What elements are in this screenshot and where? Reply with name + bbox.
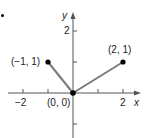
- point-origin: [70, 90, 76, 96]
- x-axis-label: x: [134, 98, 139, 108]
- segment-left: [48, 62, 73, 93]
- point-neg1-1: [45, 59, 50, 64]
- segment-right: [73, 62, 123, 93]
- coordinate-plane: [0, 0, 149, 138]
- x-tick-label-2: 2: [120, 98, 126, 108]
- point-label-2-1: (2, 1): [108, 45, 131, 55]
- y-axis-arrow-icon: [71, 12, 76, 19]
- point-label-neg1-1: (−1, 1): [11, 57, 40, 67]
- point-label-origin: (0, 0): [47, 98, 70, 108]
- x-tick-label-neg2: −2: [15, 98, 26, 108]
- y-tick-label-2: 2: [64, 26, 70, 36]
- y-axis-label: y: [62, 11, 67, 21]
- x-axis-arrow-icon: [134, 91, 141, 96]
- point-2-1: [120, 59, 125, 64]
- bullet-marker: [1, 14, 4, 17]
